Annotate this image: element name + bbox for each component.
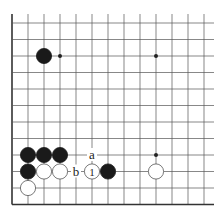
black-stone-icon <box>100 164 115 179</box>
white-stone-icon <box>36 164 51 179</box>
black-stone-icon <box>52 147 67 162</box>
point-label-a: a <box>89 147 95 162</box>
black-stone-icon <box>20 164 35 179</box>
go-board-diagram: 1 ab <box>0 0 224 217</box>
point-label-b: b <box>73 164 80 179</box>
white-stone-icon <box>52 164 67 179</box>
star-point-icon <box>58 54 62 58</box>
star-point-icon <box>154 153 158 157</box>
white-stone-icon <box>20 180 35 195</box>
stone-move-number: 1 <box>89 166 95 178</box>
black-stone-icon <box>20 147 35 162</box>
white-stone-icon <box>148 164 163 179</box>
black-stone-icon <box>36 48 51 63</box>
star-point-icon <box>154 54 158 58</box>
black-stone-icon <box>36 147 51 162</box>
